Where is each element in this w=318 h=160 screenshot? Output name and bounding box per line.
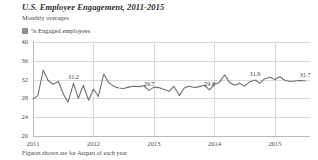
data-label-31-2: 31.2 [68,73,79,80]
page-title: U.S. Employee Engagement, 2011-2015 [22,2,164,12]
data-label-31-9: 31.9 [250,70,261,77]
legend-label: % Engaged employees [31,27,90,34]
x-tick-label-2011: 2011 [27,140,40,147]
y-tick-label-28: 28 [12,94,28,101]
y-tick-label-20: 20 [12,132,28,139]
y-tick-label-32: 32 [12,76,28,83]
y-tick-label-40: 40 [12,38,28,45]
data-label-29-8: 29.8 [204,80,215,87]
x-tick-label-2015: 2015 [268,140,281,147]
y-tick-label-24: 24 [12,113,28,120]
x-tick-label-2012: 2012 [87,140,100,147]
data-label-29-7: 29.7 [144,80,155,87]
chart-figure: U.S. Employee Engagement, 2011-2015 Mont… [0,0,318,160]
x-tick-label-2014: 2014 [208,140,221,147]
y-tick-label-36: 36 [12,57,28,64]
series-line-engaged-employees [33,42,310,136]
chart-legend: % Engaged employees [22,27,90,34]
legend-swatch-icon [22,28,28,34]
plot-area: 202428323640 20112012201320142015 31.229… [33,42,310,136]
x-tick-label-2013: 2013 [147,140,160,147]
chart-subtitle: Monthly averages [22,14,69,21]
data-label-31-7: 31.7 [300,71,311,78]
gridline-y-20 [33,136,310,137]
footnote: Figures shown are for August of each yea… [22,149,127,156]
